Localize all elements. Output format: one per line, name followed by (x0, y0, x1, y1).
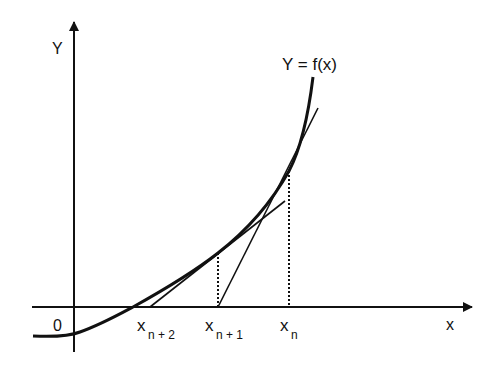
origin-label: 0 (53, 317, 62, 334)
label-xn-base: x (280, 316, 289, 335)
tangent-line-xn (218, 108, 318, 307)
label-xn1-base: x (205, 316, 214, 335)
x-axis-label: x (446, 316, 454, 333)
label-xn: x n (280, 316, 298, 342)
label-xn2-base: x (137, 316, 146, 335)
label-xn-sub: n (291, 328, 298, 342)
y-axis-label: Y (52, 40, 63, 57)
curve-label: Y = f(x) (282, 55, 337, 74)
label-xn2-sub: n + 2 (148, 328, 175, 342)
label-xn2: x n + 2 (137, 316, 175, 342)
label-xn1-sub: n + 1 (216, 328, 243, 342)
label-xn1: x n + 1 (205, 316, 243, 342)
newton-method-diagram: Y x 0 Y = f(x) x n + 2 x n + 1 x n (0, 0, 491, 367)
